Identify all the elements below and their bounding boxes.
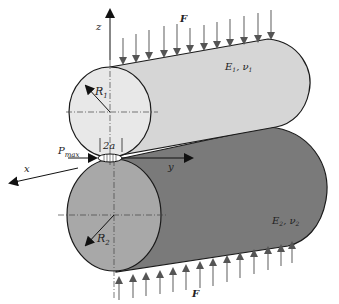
z-axis-label: z (95, 21, 102, 32)
contact-diagram: z F F R1 R2 E1, ν1 E2, ν2 2a Pmax x y (0, 0, 339, 304)
x-axis-arrow (10, 168, 78, 183)
material-1-label: E1, ν1 (224, 61, 252, 73)
material-2-label: E2, ν2 (271, 215, 300, 227)
x-axis-label: x (24, 163, 30, 174)
pmax-label: Pmax (57, 145, 80, 159)
force-top-label: F (179, 13, 188, 24)
force-bottom-label: F (191, 288, 200, 299)
y-axis-label: y (167, 161, 174, 172)
contact-width-label: 2a (102, 140, 115, 151)
diagram-svg: z F F R1 R2 E1, ν1 E2, ν2 2a Pmax x y (0, 0, 339, 304)
